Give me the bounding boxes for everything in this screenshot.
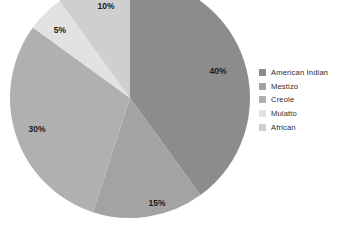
legend-item-label: Creole: [271, 95, 294, 104]
pie-slice-value-label: 5%: [54, 25, 67, 35]
legend-item[interactable]: Mestizo: [259, 80, 355, 94]
legend-swatch-icon: [259, 83, 266, 90]
legend-swatch-icon: [259, 110, 266, 117]
legend-swatch-icon: [259, 69, 266, 76]
pie-slice-value-label: 40%: [209, 66, 226, 76]
legend-item-label: Mestizo: [271, 82, 298, 91]
legend-item[interactable]: African: [259, 120, 355, 134]
pie-chart: 40%15%30%5%10% American IndianMestizoCre…: [0, 0, 355, 229]
legend-item-label: African: [271, 123, 296, 132]
legend-item[interactable]: American Indian: [259, 66, 355, 80]
legend-item-label: Mulatto: [271, 109, 297, 118]
legend-item-label: American Indian: [271, 68, 328, 77]
pie-slice-value-label: 15%: [148, 198, 165, 208]
legend-item[interactable]: Creole: [259, 93, 355, 107]
legend-item[interactable]: Mulatto: [259, 107, 355, 121]
pie-slice-value-label: 10%: [97, 1, 114, 11]
legend-swatch-icon: [259, 124, 266, 131]
pie-slice-value-label: 30%: [28, 124, 45, 134]
chart-legend: American IndianMestizoCreoleMulattoAfric…: [259, 66, 355, 134]
legend-swatch-icon: [259, 96, 266, 103]
pie-slice-group: [10, 0, 250, 218]
